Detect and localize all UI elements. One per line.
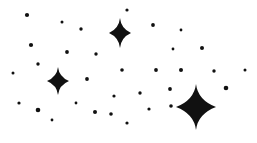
star-dot [125, 8, 128, 11]
star-dot [12, 72, 15, 75]
star-dot [79, 27, 82, 30]
canvas-background [0, 0, 257, 143]
star-dot [168, 87, 172, 91]
starfield-illustration: Starry Night Sky Doodle [0, 0, 257, 143]
star-dot [36, 62, 39, 65]
star-dot [93, 110, 97, 114]
star-dot [224, 86, 229, 91]
star-dot [200, 46, 204, 50]
star-dot [179, 68, 183, 72]
star-dot [29, 43, 33, 47]
star-dot [61, 21, 64, 24]
star-dot [147, 107, 150, 110]
starfield-canvas [0, 0, 257, 143]
star-dot [112, 94, 115, 97]
star-dot [75, 102, 78, 105]
star-dot [172, 48, 175, 51]
star-dot [17, 101, 20, 104]
star-dot [125, 121, 128, 124]
star-dot [212, 69, 215, 72]
star-dot [154, 68, 158, 72]
star-dot [120, 68, 124, 72]
star-dot [51, 119, 54, 122]
star-dot [109, 112, 113, 116]
star-dot [25, 13, 29, 17]
star-dot [65, 50, 69, 54]
star-dot [94, 52, 97, 55]
star-dot [244, 69, 247, 72]
star-dot [36, 108, 41, 113]
star-dot [151, 23, 155, 27]
star-dot [169, 104, 173, 108]
star-dot [85, 77, 89, 81]
star-dot [180, 29, 183, 32]
star-dot [138, 91, 141, 94]
